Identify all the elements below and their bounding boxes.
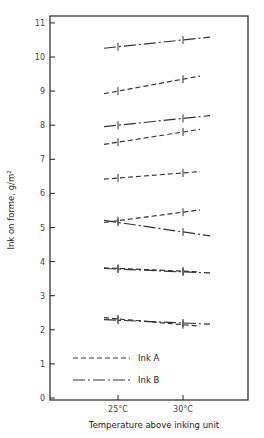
legend-label-ink-a: Ink A <box>138 353 160 363</box>
legend-label-ink-b: Ink B <box>138 375 160 385</box>
series-line <box>104 116 210 127</box>
series-line <box>104 220 210 236</box>
plot-frame <box>50 16 248 400</box>
x-axis-title: Temperature above inking unit <box>88 420 220 430</box>
x-tick-label: 30°C <box>173 405 193 414</box>
series-line <box>104 37 210 48</box>
y-tick-label: 10 <box>35 53 45 62</box>
y-tick-label: 3 <box>40 292 45 301</box>
series-line <box>104 269 210 273</box>
y-tick-label: 9 <box>40 87 45 96</box>
y-tick-label: 1 <box>40 360 45 369</box>
data-series <box>104 36 210 329</box>
y-tick-label: 6 <box>40 189 45 198</box>
y-tick-label: 7 <box>40 155 45 164</box>
y-tick-label: 5 <box>40 224 45 233</box>
y-tick-label: 2 <box>40 326 45 335</box>
chart: 01234567891011 25°C30°C Ink on forme, g/… <box>0 0 264 438</box>
legend: Ink A Ink B <box>73 353 160 385</box>
x-tick-label: 25°C <box>108 405 128 414</box>
y-tick-label: 4 <box>40 258 45 267</box>
y-tick-label: 11 <box>35 19 45 28</box>
x-axis-ticks: 25°C30°C <box>108 395 193 414</box>
y-axis-ticks: 01234567891011 <box>35 19 55 403</box>
y-axis-title: Ink on forme, g/m² <box>6 170 16 249</box>
y-tick-label: 8 <box>40 121 45 130</box>
y-tick-label: 0 <box>40 394 45 403</box>
series-line <box>104 320 210 324</box>
